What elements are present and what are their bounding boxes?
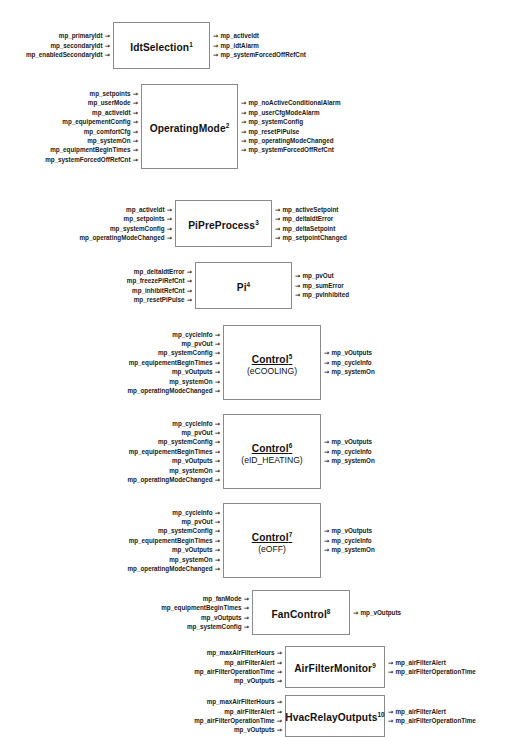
output-port: → mp_systemOn	[324, 545, 375, 554]
input-port: mp_systemOn →	[169, 377, 220, 386]
input-port-label: mp_systemOn	[169, 467, 212, 474]
block-box-airfiltermonitor-9[interactable]: AirFilterMonitor9	[285, 646, 385, 688]
block-group-fancontrol-8: mp_fanMode →mp_equipmentBeginTimes →mp_v…	[0, 590, 506, 635]
input-port-label: mp_systemConfig	[110, 225, 165, 232]
input-port: mp_vOutputs →	[172, 456, 220, 465]
block-index: 6	[289, 442, 293, 449]
input-port-label: mp_systemConfig	[158, 438, 213, 445]
block-index: 8	[327, 608, 331, 615]
input-port-label: mp_maxAirFilterHours	[207, 649, 275, 656]
block-box-control-6[interactable]: Control6(eID_HEATING)	[223, 414, 321, 489]
block-box-control-5[interactable]: Control5(eCOOLING)	[223, 325, 321, 400]
output-port: → mp_vOutputs	[324, 437, 372, 446]
block-index: 10	[377, 711, 384, 718]
input-port: mp_operatingModeChanged →	[128, 475, 220, 484]
output-port-label: mp_userCfgModeAlarm	[248, 109, 319, 116]
input-port: mp_systemOn →	[169, 466, 220, 475]
output-port: → mp_setpointChanged	[275, 233, 347, 242]
block-title-text: IdtSelection	[130, 42, 189, 53]
arrow-right-icon: →	[275, 698, 282, 705]
input-port-label: mp_vOutputs	[172, 546, 213, 553]
arrow-right-icon: →	[213, 546, 220, 553]
input-port-label: mp_operatingModeChanged	[128, 476, 213, 483]
arrow-right-icon: →	[213, 429, 220, 436]
block-title: Control7	[252, 531, 293, 543]
output-port-list: → mp_vOutputs→ mp_cycleInfo→ mp_systemOn	[321, 325, 375, 400]
block-box-hvacrelayoutputs-10[interactable]: HvacRelayOutputs10	[285, 695, 385, 737]
output-port: → mp_systemForcedOffRefCnt	[213, 50, 306, 59]
output-port: → mp_cycleInfo	[324, 358, 372, 367]
input-port-list: mp_deltaIdtError →mp_freezePiRefCnt →mp_…	[127, 262, 195, 309]
input-port-label: mp_resetPiPulse	[134, 296, 185, 303]
output-port-label: mp_pvOut	[302, 272, 333, 279]
input-port: mp_inhibitRefCnt →	[132, 286, 192, 295]
arrow-right-icon: →	[185, 268, 192, 275]
block-index: 4	[247, 281, 251, 288]
input-port: mp_setpoints →	[90, 89, 138, 98]
input-port: mp_freezePiRefCnt →	[127, 276, 192, 285]
output-port-label: mp_vOutputs	[331, 438, 372, 445]
block-group-control-6: mp_cycleInfo →mp_pvOut →mp_systemConfig …	[0, 414, 506, 489]
block-subtitle: (eCOOLING)	[247, 366, 297, 376]
output-port-label: mp_systemForcedOffRefCnt	[248, 146, 333, 153]
output-port: → mp_deltaIdtError	[275, 214, 333, 223]
input-port: mp_primaryIdt →	[59, 31, 110, 40]
output-port-label: mp_airFilterOperationTime	[395, 717, 475, 724]
output-port-label: mp_cycleInfo	[331, 537, 371, 544]
input-port: mp_activeIdt →	[126, 205, 172, 214]
output-port-label: mp_pvInhibited	[302, 291, 349, 298]
block-title: Pi4	[237, 281, 250, 293]
input-port: mp_operatingModeChanged →	[80, 233, 172, 242]
arrow-right-icon: →	[103, 51, 110, 58]
arrow-right-icon: →	[213, 509, 220, 516]
arrow-right-icon: →	[242, 614, 249, 621]
input-port: mp_systemOn →	[87, 136, 138, 145]
block-box-operatingmode-2[interactable]: OperatingMode2	[141, 84, 238, 169]
output-port: → mp_systemForcedOffRefCnt	[241, 145, 334, 154]
block-box-fancontrol-8[interactable]: FanControl8	[252, 590, 350, 635]
arrow-right-icon: →	[275, 659, 282, 666]
input-port-label: mp_vOutputs	[234, 726, 275, 733]
block-title: HvacRelayOutputs10	[285, 711, 385, 723]
input-port-list: mp_primaryIdt →mp_secondaryIdt →mp_enabl…	[26, 22, 113, 69]
arrow-right-icon: →	[165, 206, 172, 213]
output-port-label: mp_sumError	[302, 282, 343, 289]
output-port-list: → mp_airFilterAlert→ mp_airFilterOperati…	[385, 646, 476, 688]
input-port: mp_cycleInfo →	[172, 508, 220, 517]
block-box-idtselection-1[interactable]: IdtSelection1	[113, 22, 210, 69]
block-box-control-7[interactable]: Control7(eOFF)	[223, 503, 321, 578]
arrow-right-icon: →	[213, 349, 220, 356]
output-port-label: mp_systemOn	[331, 546, 374, 553]
output-port: → mp_userCfgModeAlarm	[241, 108, 320, 117]
input-port-label: mp_enabledSecondaryIdt	[26, 51, 103, 58]
arrow-right-icon: →	[213, 565, 220, 572]
arrow-right-icon: →	[103, 42, 110, 49]
block-group-pipreprocess-3: mp_activeIdt →mp_setpoints →mp_systemCon…	[0, 200, 506, 247]
input-port-label: mp_comfortCfg	[84, 128, 131, 135]
output-port: → mp_operatingModeChanged	[241, 136, 333, 145]
input-port-label: mp_equipmentBeginTimes	[50, 146, 130, 153]
block-box-pi-4[interactable]: Pi4	[195, 262, 292, 309]
input-port-label: mp_cycleInfo	[172, 420, 212, 427]
arrow-right-icon: →	[275, 668, 282, 675]
arrow-right-icon: →	[131, 99, 138, 106]
input-port: mp_activeIdt →	[92, 108, 138, 117]
arrow-right-icon: →	[213, 537, 220, 544]
arrow-right-icon: →	[213, 556, 220, 563]
arrow-right-icon: →	[213, 359, 220, 366]
input-port-label: mp_maxAirFilterHours	[207, 698, 275, 705]
input-port-label: mp_vOutputs	[201, 614, 242, 621]
input-port: mp_resetPiPulse →	[134, 295, 192, 304]
block-box-pipreprocess-3[interactable]: PiPreProcess3	[175, 200, 272, 247]
output-port-list: → mp_vOutputs→ mp_cycleInfo→ mp_systemOn	[321, 503, 375, 578]
output-port-label: mp_systemOn	[331, 368, 374, 375]
arrow-right-icon: →	[275, 708, 282, 715]
input-port: mp_systemConfig →	[187, 622, 249, 631]
input-port: mp_deltaIdtError →	[134, 267, 192, 276]
block-group-operatingmode-2: mp_setpoints →mp_userMode →mp_activeIdt …	[0, 84, 506, 169]
block-group-pi-4: mp_deltaIdtError →mp_freezePiRefCnt →mp_…	[0, 262, 506, 309]
input-port: mp_equipmentBeginTimes →	[50, 145, 138, 154]
input-port: mp_cycleInfo →	[172, 330, 220, 339]
arrow-right-icon: →	[165, 215, 172, 222]
input-port-label: mp_systemConfig	[187, 623, 242, 630]
